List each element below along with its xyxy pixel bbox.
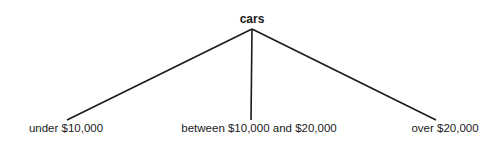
leaf-node-over-20000: over $20,000 [411,122,478,134]
leaf-node-under-10000: under $10,000 [29,122,103,134]
root-node-cars: cars [240,12,265,26]
edge-left [67,29,252,120]
edge-right [252,29,436,120]
leaf-node-between-10000-20000: between $10,000 and $20,000 [181,122,336,134]
edge-center [251,29,252,120]
